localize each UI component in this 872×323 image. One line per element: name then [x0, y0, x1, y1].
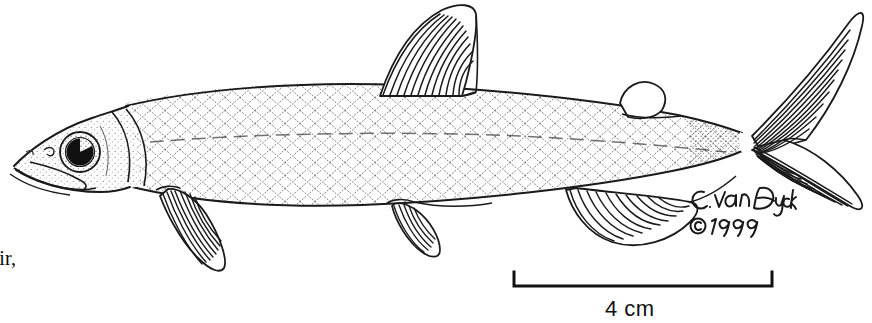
- scale-bar-label: 4 cm: [605, 296, 655, 322]
- anal-fin: [566, 176, 736, 245]
- adipose-fin: [620, 82, 682, 118]
- caption-fragment: oir,: [0, 247, 16, 270]
- eye: [60, 132, 100, 172]
- illustration-plate: oir, 4 cm: [0, 0, 872, 323]
- scale-bar: [514, 272, 772, 286]
- fish-illustration: [0, 0, 872, 323]
- dorsal-fin: [380, 5, 478, 96]
- pelvic-fin: [386, 200, 492, 257]
- caudal-fin: [752, 13, 863, 209]
